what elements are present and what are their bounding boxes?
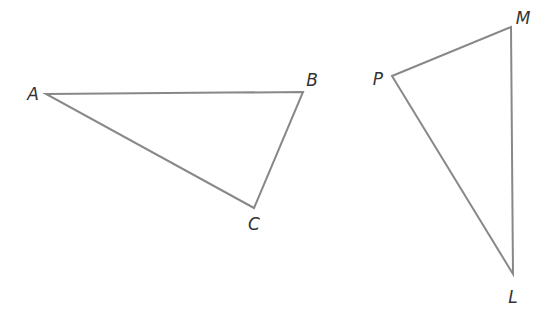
triangle-abc xyxy=(46,92,303,208)
vertex-label-m: M xyxy=(516,10,531,27)
triangles-svg xyxy=(0,0,560,310)
vertex-label-c: C xyxy=(248,216,260,233)
diagram-canvas: A B C P M L xyxy=(0,0,560,310)
vertex-label-b: B xyxy=(306,72,318,89)
vertex-label-a: A xyxy=(27,86,39,103)
triangle-pml xyxy=(392,27,513,274)
vertex-label-l: L xyxy=(508,289,517,306)
vertex-label-p: P xyxy=(373,71,383,88)
